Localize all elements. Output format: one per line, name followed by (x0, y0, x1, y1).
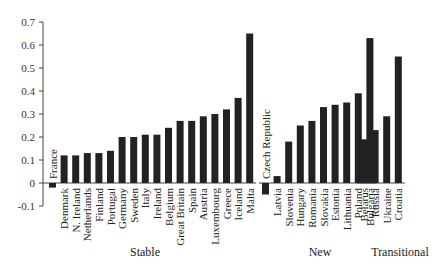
group-labels: StableNewTransitional (130, 245, 429, 259)
category-label: Lithuania (341, 188, 353, 230)
category-label: France (47, 149, 59, 179)
y-tick-label: 0.6 (21, 39, 35, 51)
bar (383, 116, 390, 183)
bar (235, 98, 242, 183)
bar (95, 153, 102, 183)
category-label: Czech Republic (260, 109, 272, 179)
bar (274, 176, 281, 183)
bars (49, 34, 402, 195)
y-tick-label: 0.2 (21, 131, 35, 143)
bar (49, 183, 56, 188)
bar (84, 153, 91, 183)
category-label: Austria (197, 188, 209, 221)
category-label: Romania (306, 188, 318, 228)
y-tick-label: 0.4 (21, 85, 35, 97)
bar (395, 57, 402, 184)
bar (223, 109, 230, 183)
bar (177, 121, 184, 183)
bar (360, 139, 367, 183)
bar (285, 142, 292, 183)
category-label: Portugal (105, 188, 117, 225)
bar (142, 135, 149, 183)
category-label: Germany (116, 188, 128, 229)
bar-chart: -0.100.10.20.30.40.50.60.7 FranceDenmark… (0, 0, 446, 270)
bar (188, 121, 195, 183)
bar (200, 116, 207, 183)
bar (343, 103, 350, 184)
category-label: Italy (139, 188, 151, 209)
category-label: Malta (244, 188, 256, 214)
bar (308, 121, 315, 183)
category-label: Luxembourg (209, 188, 221, 245)
category-label: Belarus (358, 188, 370, 222)
category-label: Iceland (232, 188, 244, 221)
bar (297, 126, 304, 184)
y-tick-label: 0.3 (21, 108, 35, 120)
bar (130, 137, 137, 183)
category-label: Slovenia (283, 188, 295, 227)
bar (332, 105, 339, 183)
category-label: Russia (369, 188, 381, 217)
group-label: Transitional (371, 245, 429, 259)
category-label: Denmark (58, 188, 70, 229)
bar (246, 34, 253, 184)
category-label: Spain (186, 188, 198, 214)
category-label: Ukraine (381, 188, 393, 224)
bar (165, 128, 172, 183)
bar (372, 130, 379, 183)
bar (320, 107, 327, 183)
category-label: Latvia (271, 188, 283, 216)
category-label: Great Britain (174, 188, 186, 246)
y-tick-label: 0.1 (21, 154, 35, 166)
y-axis: -0.100.10.20.30.40.50.60.7 (18, 16, 43, 212)
category-label: Finland (93, 188, 105, 222)
bar (61, 155, 68, 183)
bar (262, 183, 269, 195)
category-label: Ireland (151, 188, 163, 220)
category-label: Sweden (128, 188, 140, 223)
bar (107, 151, 114, 183)
y-tick-label: -0.1 (18, 200, 35, 212)
category-label: Belgium (163, 188, 175, 226)
group-label: New (309, 245, 332, 259)
category-label: Netherlands (81, 188, 93, 241)
bar (72, 155, 79, 183)
group-label: Stable (130, 245, 160, 259)
category-label: N. Ireland (70, 188, 82, 233)
category-label: Hungary (294, 188, 306, 227)
category-label: Estonia (329, 188, 341, 221)
bar (153, 135, 160, 183)
bar (119, 137, 126, 183)
y-tick-label: 0.5 (21, 62, 35, 74)
y-tick-label: 0.7 (21, 16, 35, 28)
category-label: Slovakia (318, 188, 330, 227)
y-tick-label: 0 (30, 177, 36, 189)
category-label: Greece (221, 188, 233, 219)
bar (211, 114, 218, 183)
category-label: Croatia (392, 188, 404, 220)
